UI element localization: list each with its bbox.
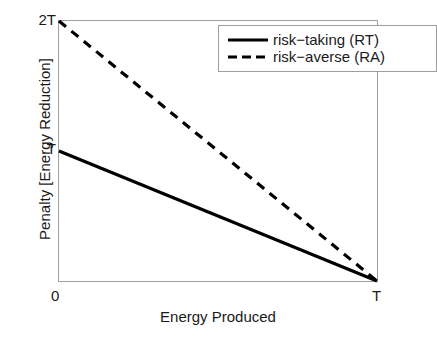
- legend-label-risk-averse: risk−averse (RA): [273, 48, 385, 65]
- series-line-risk-taking: [59, 151, 377, 281]
- plot-area: risk−taking (RT) risk−averse (RA): [58, 20, 378, 282]
- y-tick-label-T: T: [47, 141, 56, 156]
- legend-solid-line-icon: [226, 33, 270, 47]
- x-tick-label-T: T: [372, 288, 381, 303]
- x-axis-label: Energy Produced: [58, 309, 378, 325]
- x-tick-label-0: 0: [51, 288, 59, 303]
- legend-item-risk-averse: risk−averse (RA): [226, 48, 429, 65]
- legend: risk−taking (RT) risk−averse (RA): [218, 25, 437, 72]
- legend-label-risk-taking: risk−taking (RT): [273, 31, 379, 48]
- y-tick-label-2T: 2T: [38, 12, 56, 27]
- legend-item-risk-taking: risk−taking (RT): [226, 31, 429, 48]
- legend-dashed-line-icon: [226, 50, 270, 64]
